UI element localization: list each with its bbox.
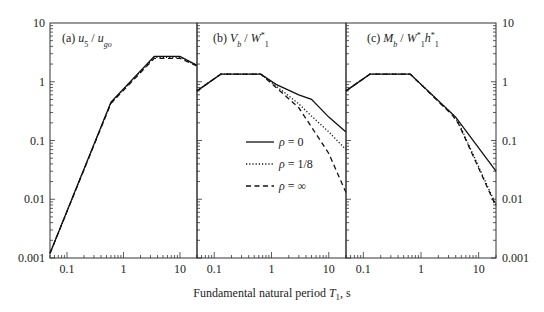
legend: ρ = 0ρ = 1/8ρ = ∞ bbox=[246, 135, 313, 193]
panel-b: 0.1110 bbox=[197, 23, 346, 276]
x-tick-label: 0.1 bbox=[60, 262, 75, 276]
plot-frame bbox=[50, 23, 197, 258]
plot-frame bbox=[197, 23, 346, 258]
series-line-dashed bbox=[197, 74, 346, 193]
panel-c-title: (c) Mb / W*1h*1 bbox=[367, 31, 439, 49]
figure: 0.11100.11100.11100.0010.0010.010.010.10… bbox=[0, 0, 544, 312]
series-line-solid bbox=[197, 74, 346, 132]
x-axis-label-suffix: , s bbox=[340, 286, 351, 300]
legend-label: ρ = 1/8 bbox=[278, 157, 313, 171]
x-axis-label-prefix: Fundamental natural period bbox=[193, 286, 329, 300]
x-tick-label: 10 bbox=[473, 262, 485, 276]
x-tick-label: 0.1 bbox=[356, 262, 371, 276]
x-tick-label: 10 bbox=[174, 262, 186, 276]
y-tick-label-left: 10 bbox=[33, 16, 45, 30]
x-axis-label-symbol: T bbox=[329, 286, 336, 300]
y-tick-label-right: 10 bbox=[502, 16, 514, 30]
x-axis-label: Fundamental natural period T1, s bbox=[0, 286, 544, 302]
y-tick-label-right: 0.01 bbox=[502, 192, 523, 206]
y-tick-label-right: 0.1 bbox=[502, 134, 517, 148]
x-tick-label: 1 bbox=[269, 262, 275, 276]
panel-a-title: (a) u5 / ugo bbox=[62, 31, 112, 49]
panel-a: 0.1110 bbox=[50, 23, 197, 276]
x-tick-label: 1 bbox=[121, 262, 127, 276]
y-tick-label-left: 0.01 bbox=[24, 192, 45, 206]
legend-label: ρ = ∞ bbox=[278, 179, 306, 193]
series-line-dashed bbox=[50, 58, 197, 253]
y-tick-label-right: 0.001 bbox=[502, 251, 529, 265]
x-tick-label: 1 bbox=[418, 262, 424, 276]
panel-b-title: (b) Vb / W*1 bbox=[213, 31, 269, 49]
x-tick-label: 10 bbox=[323, 262, 335, 276]
y-tick-label-left: 0.1 bbox=[30, 134, 45, 148]
panel-c: 0.1110 bbox=[346, 23, 496, 276]
x-tick-label: 0.1 bbox=[207, 262, 222, 276]
legend-label: ρ = 0 bbox=[278, 135, 304, 149]
series-line-dotted bbox=[346, 74, 496, 205]
y-tick-label-left: 0.001 bbox=[18, 251, 45, 265]
series-line-solid bbox=[346, 74, 496, 171]
y-tick-label-left: 1 bbox=[39, 75, 45, 89]
series-line-dotted bbox=[50, 57, 197, 253]
y-tick-label-right: 1 bbox=[502, 75, 508, 89]
series-line-solid bbox=[50, 56, 197, 253]
